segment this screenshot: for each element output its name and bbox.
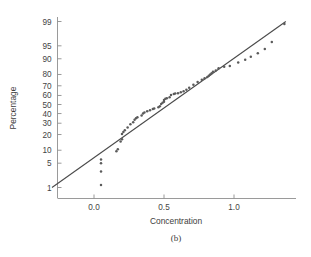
data-point xyxy=(132,121,135,124)
data-point xyxy=(166,97,169,100)
data-point xyxy=(146,110,149,113)
data-point xyxy=(257,52,260,55)
data-point xyxy=(185,89,188,92)
data-point xyxy=(129,123,132,126)
y-axis-tick-labels: 999590807060504030201051 xyxy=(42,18,52,193)
data-point xyxy=(117,148,120,151)
data-point xyxy=(283,23,286,26)
data-point xyxy=(100,184,103,187)
data-point xyxy=(217,67,220,70)
x-axis-tick-labels: 0.00.51.0 xyxy=(88,203,240,212)
data-point xyxy=(223,66,226,69)
y-tick-label: 10 xyxy=(42,146,52,155)
y-axis: 999590807060504030201051 xyxy=(42,17,61,198)
data-point xyxy=(153,107,156,110)
data-point xyxy=(215,69,218,72)
probability-plot-figure: 999590807060504030201051 0.00.51.0 Conce… xyxy=(0,0,311,257)
y-tick-label: 99 xyxy=(42,18,52,27)
y-tick-label: 95 xyxy=(42,42,52,51)
data-point xyxy=(212,71,215,74)
data-point xyxy=(143,111,146,114)
x-axis: 0.00.51.0 xyxy=(58,195,297,212)
data-point xyxy=(203,77,206,80)
x-tick-label: 1.0 xyxy=(228,203,240,212)
x-tick-label: 0.5 xyxy=(158,203,170,212)
y-tick-label: 60 xyxy=(42,91,52,100)
reference-fit-line xyxy=(52,22,286,188)
scatter-point-group xyxy=(100,23,286,187)
data-point xyxy=(149,109,152,112)
y-tick-label: 70 xyxy=(42,82,52,91)
data-point xyxy=(119,140,122,143)
data-point xyxy=(180,91,183,94)
data-point xyxy=(124,129,127,132)
data-point xyxy=(188,87,191,90)
data-point xyxy=(136,116,139,119)
y-axis-title: Percentage xyxy=(8,86,18,129)
data-point xyxy=(177,92,180,95)
data-point xyxy=(100,170,103,173)
data-point xyxy=(174,92,177,95)
data-point xyxy=(115,150,118,153)
x-axis-ticks xyxy=(94,195,234,199)
data-point xyxy=(192,84,195,87)
y-tick-label: 80 xyxy=(42,70,52,79)
data-point xyxy=(244,59,247,62)
data-point xyxy=(182,90,185,93)
data-point xyxy=(168,96,171,99)
data-point xyxy=(264,48,267,51)
data-point xyxy=(250,55,253,58)
data-point xyxy=(100,162,103,165)
y-tick-label: 50 xyxy=(42,101,52,110)
y-tick-label: 30 xyxy=(42,119,52,128)
x-tick-label: 0.0 xyxy=(88,203,100,212)
y-tick-label: 1 xyxy=(47,184,52,193)
x-axis-title: Concentration xyxy=(150,216,202,226)
y-tick-label: 5 xyxy=(47,159,52,168)
y-axis-ticks xyxy=(58,22,62,188)
data-point xyxy=(100,158,103,161)
figure-caption: (b) xyxy=(171,233,182,243)
data-point xyxy=(170,94,173,97)
data-point xyxy=(229,65,232,68)
data-point xyxy=(126,126,129,129)
data-point xyxy=(201,79,204,82)
data-point xyxy=(237,61,240,64)
chart-canvas: 999590807060504030201051 0.00.51.0 Conce… xyxy=(0,0,311,257)
data-point xyxy=(271,41,274,44)
data-point xyxy=(121,138,124,141)
y-tick-label: 40 xyxy=(42,110,52,119)
data-point xyxy=(196,81,199,84)
y-tick-label: 90 xyxy=(42,55,52,64)
y-tick-label: 20 xyxy=(42,131,52,140)
data-point xyxy=(159,105,162,108)
